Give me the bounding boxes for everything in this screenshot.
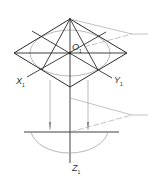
x-axis-label-sub: 1 — [22, 82, 25, 88]
y-axis-label-sub: 1 — [120, 81, 123, 87]
leader-bottom-upper — [70, 98, 132, 115]
construction-line-left — [42, 19, 70, 70]
top-vertex-point — [69, 18, 71, 20]
x-axis-label: X1 — [16, 77, 25, 88]
leader-bottom-lower — [70, 115, 132, 132]
origin-label-main: O — [72, 42, 79, 52]
z-axis-label-sub: 1 — [78, 169, 81, 175]
front-view-semicircle — [31, 132, 108, 153]
y-axis-label: Y1 — [114, 76, 123, 87]
origin-label-sub: 1 — [79, 48, 82, 54]
center-point — [69, 52, 71, 54]
origin-label: O1 — [72, 43, 82, 54]
leader-top-upper — [70, 19, 132, 34]
arrow-right-icon — [87, 122, 89, 130]
arrow-left-icon — [49, 122, 51, 130]
z-axis-label: Z1 — [72, 164, 80, 175]
